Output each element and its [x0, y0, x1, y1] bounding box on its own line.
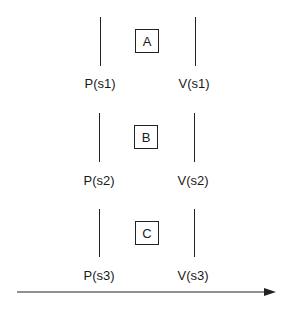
arrow-head-icon	[264, 288, 276, 296]
time-arrow	[0, 0, 289, 312]
